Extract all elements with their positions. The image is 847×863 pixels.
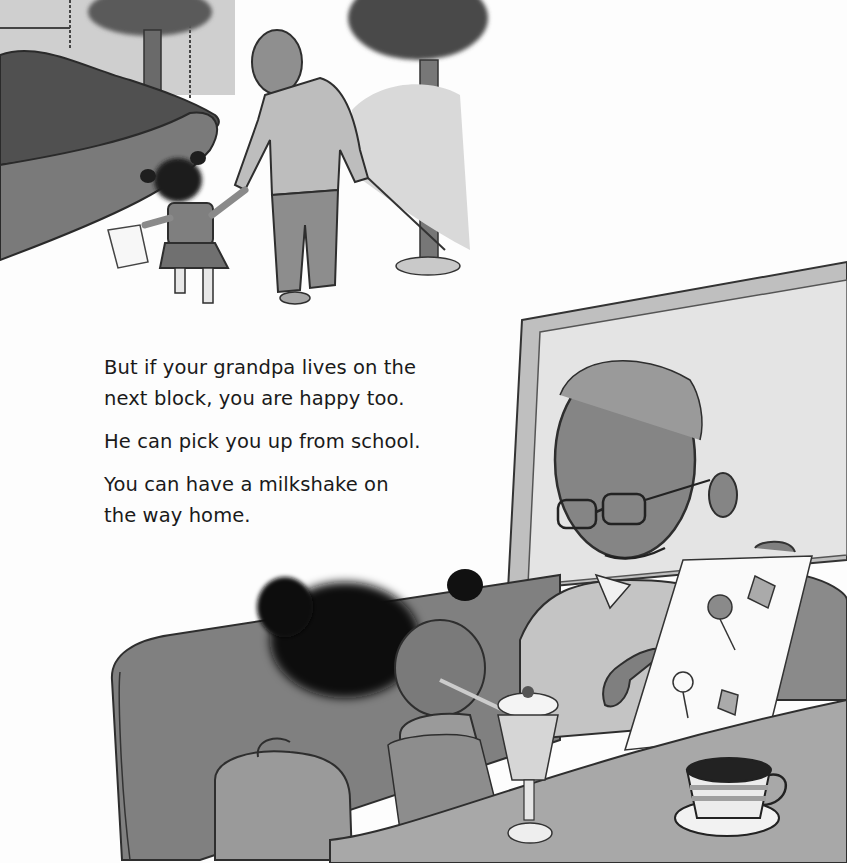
paragraph-2: He can pick you up from school.: [104, 426, 434, 457]
grandpa-walking: [235, 30, 368, 304]
story-text: But if your grandpa lives on the next bl…: [104, 352, 434, 543]
storybook-page: But if your grandpa lives on the next bl…: [0, 0, 847, 863]
text-line: the way home.: [104, 504, 251, 527]
paragraph-3: You can have a milkshake on the way home…: [104, 469, 434, 531]
drawing-paper-icon: [108, 225, 148, 268]
text-line: next block, you are happy too.: [104, 387, 404, 410]
text-line: But if your grandpa lives on the: [104, 356, 416, 379]
text-line: You can have a milkshake on: [104, 473, 389, 496]
text-line: He can pick you up from school.: [104, 430, 420, 453]
paragraph-1: But if your grandpa lives on the next bl…: [104, 352, 434, 414]
walking-scene: [0, 0, 488, 304]
